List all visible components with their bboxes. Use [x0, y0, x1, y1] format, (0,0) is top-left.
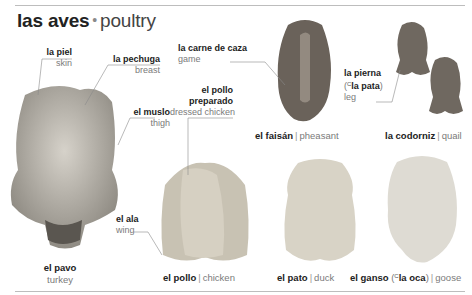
caption-goose: el ganso (Cla oca)|goose — [350, 272, 461, 283]
caption-pheasant: el faisán|pheasant — [255, 130, 339, 141]
label-leg: la pierna (Cla pata) leg — [344, 68, 383, 103]
caption-quail: la codorniz|quail — [385, 130, 462, 141]
label-dressed-chicken: el pollo preparado dressed chicken — [170, 85, 233, 118]
label-breast: la pechuga breast — [100, 54, 160, 76]
label-wing: el ala wing — [116, 214, 139, 236]
caption-chicken: el pollo|chicken — [163, 272, 235, 283]
label-skin: la piel skin — [34, 47, 72, 69]
label-thigh: el muslo thigh — [120, 107, 170, 129]
caption-turkey: el pavo turkey — [42, 262, 78, 286]
label-game: la carne de caza game — [178, 43, 247, 65]
caption-duck: el pato|duck — [277, 272, 334, 283]
